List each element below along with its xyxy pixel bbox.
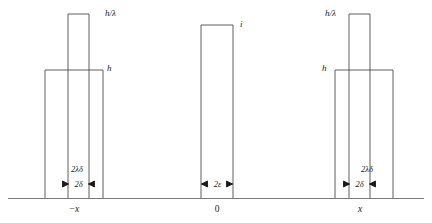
center-bar <box>201 25 233 198</box>
center-i-label: i <box>240 20 243 29</box>
right-two-lambda-delta-label: 2λδ <box>338 165 396 174</box>
right-two-delta-label: 2δ <box>344 180 375 189</box>
left-h-over-lambda-label: h/λ <box>105 9 116 18</box>
left-two-lambda-delta-label: 2λδ <box>48 165 106 174</box>
axis-tick-minus-x: −x <box>56 205 92 215</box>
center-two-epsilon-label: 2ε <box>202 180 233 189</box>
left-two-delta-label: 2δ <box>63 180 94 189</box>
diagram-svg <box>0 0 432 223</box>
axis-tick-x: x <box>342 205 378 215</box>
figure-canvas: h/λ h i h/λ h 2λδ 2δ 2ε 2λδ 2δ −x 0 x <box>0 0 432 223</box>
axis-tick-zero: 0 <box>199 205 235 215</box>
right-h-over-lambda-label: h/λ <box>325 9 336 18</box>
right-h-label: h <box>322 64 327 73</box>
left-h-label: h <box>107 64 112 73</box>
right-wide-bar <box>335 70 393 198</box>
